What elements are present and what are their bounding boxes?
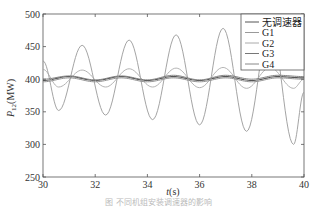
x-tick-label: 36 <box>195 179 205 190</box>
y-tick-label: 500 <box>25 9 40 20</box>
x-tick-label: 32 <box>90 179 100 190</box>
svg-text:G3: G3 <box>262 48 274 59</box>
x-tick-label: 34 <box>142 179 152 190</box>
y-tick-label: 450 <box>25 41 40 52</box>
line-chart: 303234363840250300350400450500 无调速器G1G2G… <box>0 0 317 208</box>
x-tick-label: 40 <box>299 179 309 190</box>
y-tick-label: 250 <box>25 172 40 183</box>
svg-text:无调速器: 无调速器 <box>262 17 302 28</box>
svg-text:G2: G2 <box>262 38 274 49</box>
figure-caption: 图 不同机组安装调速器的影响 <box>0 196 317 207</box>
legend: 无调速器G1G2G3G4 <box>241 14 304 70</box>
y-tick-label: 300 <box>25 139 40 150</box>
svg-text:G4: G4 <box>262 59 274 70</box>
svg-text:G1: G1 <box>262 27 274 38</box>
y-axis-label: P12(MW) <box>5 79 18 118</box>
y-tick-label: 350 <box>25 106 40 117</box>
y-tick-label: 400 <box>25 74 40 85</box>
x-tick-label: 38 <box>247 179 257 190</box>
